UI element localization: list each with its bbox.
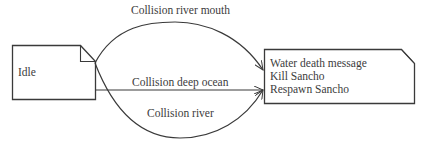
- action-kill-sancho: Kill Sancho: [270, 70, 367, 83]
- water-death-state-actions: Water death message Kill Sancho Respawn …: [270, 57, 367, 96]
- transition-label-river-mouth: Collision river mouth: [131, 4, 230, 17]
- action-respawn-sancho: Respawn Sancho: [270, 83, 367, 96]
- idle-state-label: Idle: [18, 66, 36, 79]
- transition-arrow-river-mouth: [95, 22, 263, 70]
- transition-arrow-river: [95, 63, 263, 138]
- transition-label-deep-ocean: Collision deep ocean: [132, 76, 228, 89]
- action-water-death-message: Water death message: [270, 57, 367, 70]
- transition-label-river: Collision river: [147, 107, 214, 120]
